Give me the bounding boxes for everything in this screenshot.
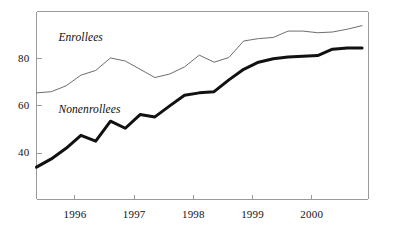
series-lines [37,26,363,168]
y-tick-label-60: 60 [10,99,30,111]
series-annotation-enrollees: Enrollees [58,31,103,43]
y-tick-label-40: 40 [10,146,30,158]
x-tick-label-2000: 2000 [292,208,332,220]
x-tick-label-1996: 1996 [55,208,95,220]
y-tick-label-80: 80 [10,52,30,64]
x-tick-label-1997: 1997 [114,208,154,220]
chart-container: 406080 19961997199819992000 EnrolleesNon… [0,0,393,241]
series-annotation-nonenrollees: Nonenrollees [58,103,120,115]
axis-ticks [37,59,312,199]
x-tick-label-1999: 1999 [233,208,273,220]
x-tick-label-1998: 1998 [173,208,213,220]
